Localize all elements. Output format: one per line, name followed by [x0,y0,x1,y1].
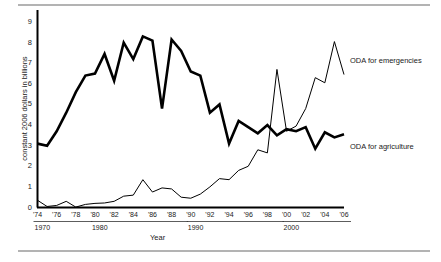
series-line-agriculture [38,36,345,148]
chart-figure: constant 2006 dollars in billions Year 0… [0,0,441,262]
series-line-emergencies [38,42,345,208]
series-label-emergencies: ODA for emergencies [350,56,422,65]
axis-lines [37,10,344,208]
plot-area [0,0,441,262]
series-label-agriculture: ODA for agriculture [350,142,414,151]
